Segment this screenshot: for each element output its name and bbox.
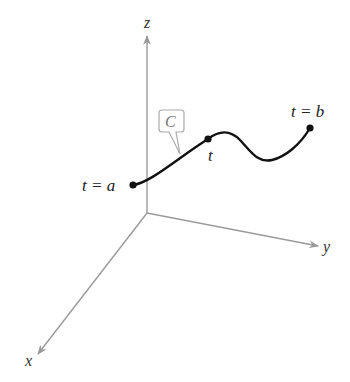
start-point [129,181,136,188]
mid-label: t [208,146,214,165]
mid-point [204,135,211,142]
y-axis-label: y [321,238,331,256]
y-axis [147,213,318,246]
curve-c [133,128,310,185]
start-label: t = a [82,176,115,195]
z-axis-label: z [143,14,151,31]
curve-name-label: C [165,113,176,130]
end-point [306,124,313,131]
x-axis-label: x [24,352,32,369]
axes [38,36,318,354]
end-label: t = b [291,102,324,121]
space-curve-diagram: z y x C t = a t t = b [0,0,350,382]
x-axis [38,213,147,354]
curve-name-callout: C [159,110,184,154]
